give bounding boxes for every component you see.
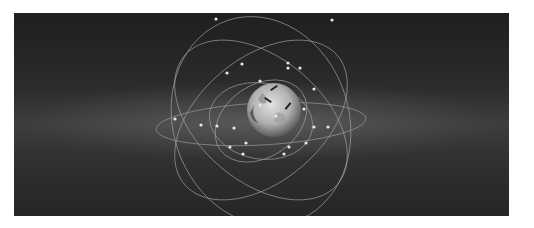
satellite-icon [244, 141, 247, 144]
satellite-icon [199, 123, 202, 126]
satellite-icon [302, 107, 305, 110]
planet-earth [247, 83, 301, 137]
satellite-icon [286, 66, 289, 69]
satellite-icon [215, 124, 218, 127]
satellite-icon [258, 79, 261, 82]
satellite-icon [282, 152, 285, 155]
orbit-illustration [14, 13, 509, 216]
satellite-orbit-scene [14, 13, 509, 216]
satellite-icon [330, 18, 333, 21]
satellite-icon [326, 125, 329, 128]
satellite-icon [274, 114, 277, 117]
satellite-icon [298, 66, 301, 69]
satellite-icon [240, 62, 243, 65]
satellite-icon [232, 126, 235, 129]
satellite-icon [287, 145, 290, 148]
satellite-icon [173, 117, 176, 120]
satellite-icon [214, 17, 217, 20]
satellite-icon [312, 87, 315, 90]
satellite-icon [286, 61, 289, 64]
satellite-icon [312, 125, 315, 128]
satellite-icon [228, 145, 231, 148]
satellite-icon [241, 152, 244, 155]
satellite-icon [258, 103, 261, 106]
satellite-icon [304, 141, 307, 144]
satellite-icon [225, 71, 228, 74]
